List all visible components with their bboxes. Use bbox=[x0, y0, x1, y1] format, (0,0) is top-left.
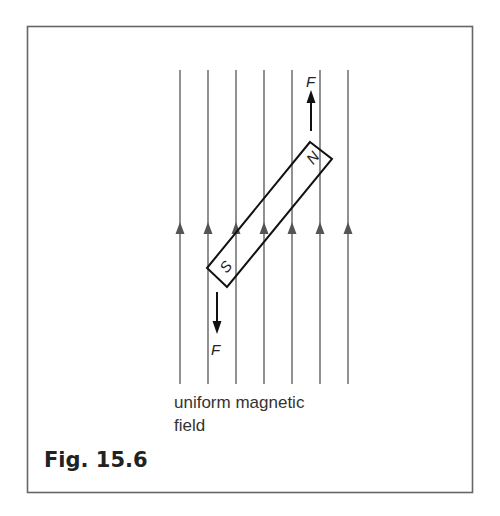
arrow-up-icon bbox=[344, 222, 353, 234]
force-arrow-up bbox=[307, 90, 316, 131]
force-label-bottom: F bbox=[211, 341, 221, 358]
field-label-line2: field bbox=[174, 415, 205, 437]
arrow-up-icon bbox=[288, 222, 297, 234]
arrow-up-icon bbox=[176, 222, 185, 234]
arrow-up-icon bbox=[307, 90, 316, 103]
arrow-down-icon bbox=[213, 321, 222, 334]
figure-caption: Fig. 15.6 bbox=[44, 448, 148, 472]
arrow-up-icon bbox=[316, 222, 325, 234]
force-label-top: F bbox=[306, 73, 316, 90]
magnet-south-label: S bbox=[216, 257, 235, 276]
field-label-line1: uniform magnetic bbox=[174, 392, 304, 414]
field-arrowheads bbox=[176, 222, 353, 234]
force-arrow-down bbox=[213, 292, 222, 334]
arrow-up-icon bbox=[204, 222, 213, 234]
magnet-in-field-diagram: N S F F bbox=[0, 0, 500, 516]
arrow-up-icon bbox=[260, 222, 269, 234]
